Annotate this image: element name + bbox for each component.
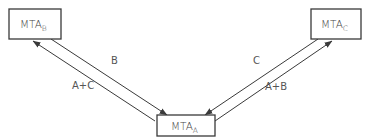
edge-b-to-a-arrow xyxy=(51,39,167,115)
edge-c-to-a-arrow xyxy=(205,39,318,115)
node-mta-b: MTAB xyxy=(9,9,61,39)
edge-label-a-plus-b: A+B xyxy=(265,81,287,92)
edge-label-a-plus-c: A+C xyxy=(72,80,94,91)
edge-label-b: B xyxy=(111,55,118,66)
node-mta-a: MTAA xyxy=(157,115,215,136)
mta-relay-diagram: B A+C C A+B MTAB MTAC MTAA xyxy=(0,0,370,138)
edge-label-c: C xyxy=(253,55,260,66)
node-mta-c: MTAC xyxy=(311,9,361,39)
